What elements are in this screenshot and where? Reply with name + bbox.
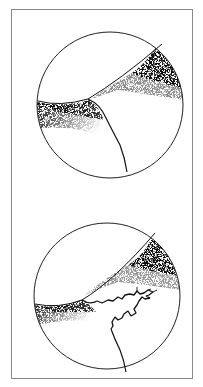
crack-line (97, 290, 153, 329)
top-panel (36, 32, 185, 178)
crack-branch (111, 329, 126, 372)
figure (0, 0, 203, 387)
bottom-panel (34, 223, 182, 372)
